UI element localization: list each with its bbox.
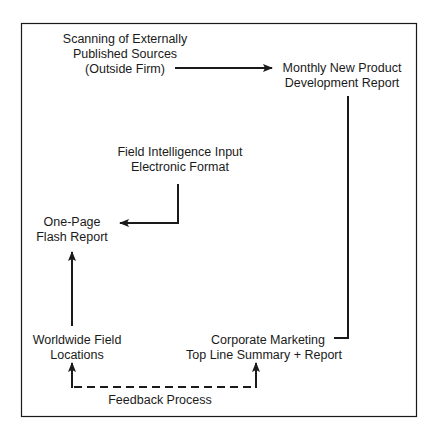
node-field-intelligence: Field Intelligence Input Electronic Form… bbox=[105, 145, 255, 175]
node-monthly-report: Monthly New Product Development Report bbox=[276, 61, 408, 91]
node-line: Published Sources bbox=[45, 47, 205, 62]
node-line: Top Line Summary + Report bbox=[176, 348, 352, 363]
node-line: Locations bbox=[22, 348, 132, 363]
node-line: Flash Report bbox=[27, 230, 117, 245]
node-flash-report: One-Page Flash Report bbox=[27, 215, 117, 245]
node-line: Development Report bbox=[276, 76, 408, 91]
node-line: One-Page bbox=[27, 215, 117, 230]
node-line: Monthly New Product bbox=[276, 61, 408, 76]
connector-monthly-to-corporate bbox=[334, 96, 348, 338]
node-line: Electronic Format bbox=[105, 160, 255, 175]
node-field-locations: Worldwide Field Locations bbox=[22, 333, 132, 363]
feedback-label: Feedback Process bbox=[100, 393, 220, 408]
arrow-field-intel-to-flash bbox=[120, 184, 178, 223]
node-line: Scanning of Externally bbox=[45, 32, 205, 47]
node-line: (Outside Firm) bbox=[45, 62, 205, 77]
node-line: Corporate Marketing bbox=[176, 333, 352, 348]
node-external-sources: Scanning of Externally Published Sources… bbox=[45, 32, 205, 77]
node-line: Worldwide Field bbox=[22, 333, 132, 348]
node-line: Field Intelligence Input bbox=[105, 145, 255, 160]
node-corporate-marketing: Corporate Marketing Top Line Summary + R… bbox=[176, 333, 352, 363]
